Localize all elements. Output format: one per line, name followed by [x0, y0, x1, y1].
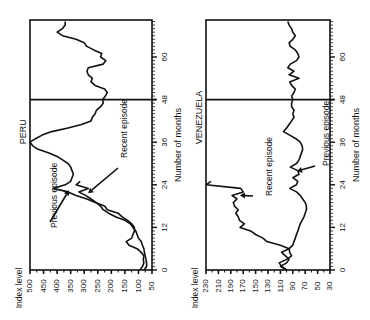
figure: 01224364860Number of months5010015020025… — [0, 0, 370, 320]
index-tick-label: 70 — [300, 281, 309, 290]
annotation-label: Recent episode — [119, 99, 129, 158]
index-tick-label: 50 — [313, 281, 322, 290]
month-tick-label: 36 — [160, 137, 169, 146]
index-tick-label: 300 — [79, 279, 88, 293]
index-tick-label: 150 — [120, 279, 129, 293]
month-tick-label: 24 — [338, 180, 347, 189]
previous-episode-line — [279, 22, 306, 271]
peru-panel: 01224364860Number of months5010015020025… — [14, 20, 183, 308]
annotation-label: Previous episode — [49, 163, 59, 228]
panel-title: VENEZUELA — [194, 91, 204, 145]
index-tick-label: 400 — [52, 279, 61, 293]
index-tick-label: 100 — [134, 279, 143, 293]
index-tick-label: 200 — [106, 279, 115, 293]
index-tick-label: 110 — [276, 279, 285, 292]
month-tick-label: 60 — [160, 52, 169, 61]
month-tick-label: 12 — [160, 222, 169, 231]
index-tick-label: 210 — [214, 279, 223, 293]
month-tick-label: 60 — [338, 52, 347, 61]
index-tick-label: 50 — [147, 281, 156, 290]
annotation-label: Recent episode — [264, 137, 274, 196]
chart-canvas: 01224364860Number of months5010015020025… — [0, 0, 370, 320]
recent-episode-line — [76, 181, 147, 270]
annotation-arrow — [302, 166, 315, 170]
month-tick-label: 0 — [338, 267, 347, 272]
index-tick-label: 450 — [39, 279, 48, 293]
panel-title: PERU — [18, 119, 28, 144]
index-tick-label: 30 — [325, 281, 334, 290]
recent-episode-line — [206, 181, 289, 270]
month-tick-label: 48 — [160, 95, 169, 104]
month-tick-label: 0 — [160, 267, 169, 272]
x-axis-label: Number of months — [173, 107, 183, 182]
y-axis-label: Index level — [14, 268, 24, 309]
index-tick-label: 90 — [288, 281, 297, 290]
index-tick-label: 130 — [263, 279, 272, 293]
y-axis-label: Index level — [190, 268, 200, 309]
month-tick-label: 12 — [338, 222, 347, 231]
month-tick-label: 48 — [338, 95, 347, 104]
annotation-label: Previous episode — [321, 101, 331, 166]
index-tick-label: 500 — [25, 279, 34, 293]
x-axis-label: Number of months — [351, 107, 361, 182]
index-tick-label: 350 — [66, 279, 75, 293]
month-tick-label: 36 — [338, 137, 347, 146]
annotation-arrow — [92, 168, 118, 190]
index-tick-label: 230 — [201, 279, 210, 293]
venezuela-panel: 01224364860Number of months3050709011013… — [190, 20, 361, 308]
month-tick-label: 24 — [160, 180, 169, 189]
index-tick-label: 150 — [251, 279, 260, 293]
index-tick-label: 170 — [238, 279, 247, 293]
index-tick-label: 190 — [226, 279, 235, 293]
index-tick-label: 250 — [93, 279, 102, 293]
